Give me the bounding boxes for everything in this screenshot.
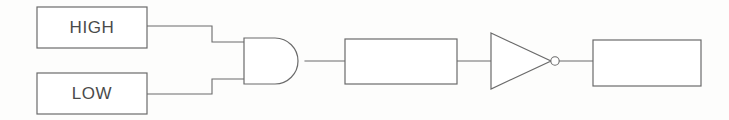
output-block-label xyxy=(593,40,701,86)
wire-high-to-and xyxy=(147,26,244,42)
wire-low-to-and xyxy=(147,79,244,94)
logic-circuit-diagram: HIGH LOW xyxy=(0,0,729,120)
and-gate-body xyxy=(244,38,298,84)
input-box-low-label: LOW xyxy=(37,73,147,114)
not-gate-bubble xyxy=(551,57,559,65)
input-box-high-label: HIGH xyxy=(37,7,147,48)
and-gate-icon[interactable] xyxy=(244,38,298,84)
middle-block-label xyxy=(345,39,457,84)
not-gate-icon[interactable] xyxy=(491,33,559,89)
not-gate-triangle xyxy=(491,33,551,89)
